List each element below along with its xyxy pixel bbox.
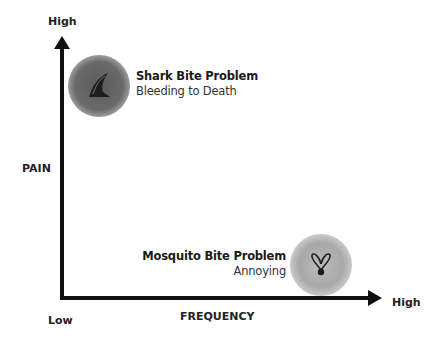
y-axis-label: PAIN: [22, 162, 51, 175]
mosquito-subtitle: Annoying: [234, 264, 286, 278]
y-axis-arrow-icon: [54, 36, 70, 49]
shark-bubble: [68, 55, 130, 117]
shark-title: Shark Bite Problem: [136, 69, 258, 83]
x-axis-arrow-icon: [368, 290, 382, 306]
shark-subtitle: Bleeding to Death: [136, 84, 237, 98]
mosquito-title: Mosquito Bite Problem: [142, 249, 286, 263]
mosquito-bubble: [290, 234, 352, 296]
y-axis-high-label: High: [48, 15, 77, 28]
shark-fin-icon: [86, 71, 112, 99]
x-axis-high-label: High: [392, 296, 421, 309]
x-axis-label: FREQUENCY: [180, 310, 255, 323]
mosquito-icon: [307, 250, 335, 280]
y-axis-line: [60, 46, 64, 300]
x-axis-line: [60, 296, 370, 300]
origin-low-label: Low: [48, 314, 73, 327]
